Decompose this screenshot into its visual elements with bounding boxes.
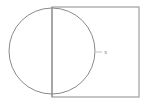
diagram-canvas (0, 0, 142, 103)
marker-label: x (104, 48, 107, 55)
rectangle-shape (52, 7, 139, 97)
